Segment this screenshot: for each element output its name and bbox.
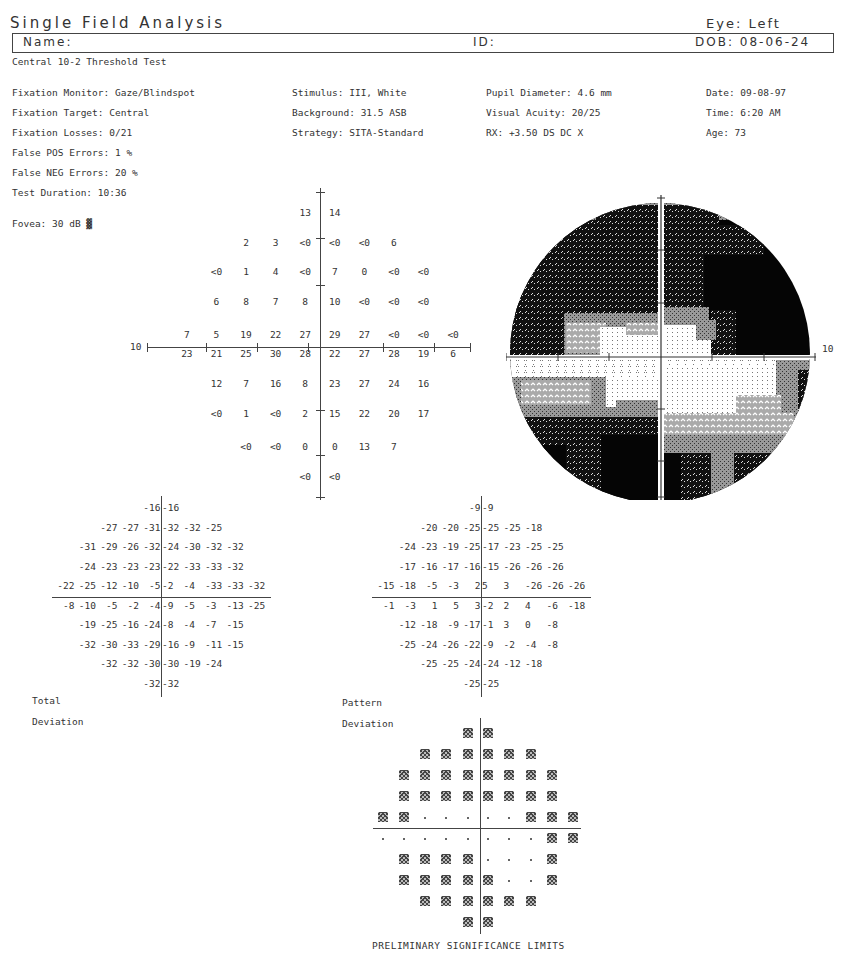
total_deviation-value: -33 bbox=[227, 580, 249, 591]
threshold-value: 25 bbox=[234, 348, 258, 359]
probability-symbol-normal bbox=[424, 817, 426, 819]
probability-symbol-significant bbox=[526, 812, 536, 822]
total_deviation-value: -16 bbox=[117, 619, 139, 630]
pattern_deviation-value: -5 bbox=[416, 580, 438, 591]
probability-horizontal-axis bbox=[373, 828, 581, 829]
total_deviation-value: -3 bbox=[205, 600, 227, 611]
pattern_deviation-value: -26 bbox=[504, 561, 526, 572]
threshold-value: 13 bbox=[352, 441, 376, 452]
threshold-axis-label: 10 bbox=[130, 341, 141, 352]
pattern_deviation-value: -18 bbox=[416, 619, 438, 630]
total_deviation-value: -19 bbox=[74, 619, 96, 630]
total_deviation-value: -29 bbox=[139, 639, 161, 650]
threshold-value: 24 bbox=[382, 378, 406, 389]
probability-symbol-significant bbox=[399, 812, 409, 822]
total_deviation-value: -19 bbox=[184, 658, 206, 669]
threshold-value: 7 bbox=[264, 296, 288, 307]
threshold-value: <0 bbox=[412, 266, 436, 277]
total_deviation-value: -33 bbox=[205, 561, 227, 572]
probability-symbol-normal bbox=[508, 817, 510, 819]
threshold-value: <0 bbox=[204, 408, 228, 419]
pattern_deviation-value: -17 bbox=[394, 561, 416, 572]
total_deviation-value: -7 bbox=[205, 619, 227, 630]
pattern_deviation-value: -24 bbox=[416, 639, 438, 650]
probability-symbol-significant bbox=[483, 749, 493, 759]
threshold-value: <0 bbox=[441, 329, 465, 340]
probability-symbol-significant bbox=[568, 812, 578, 822]
probability-symbol-significant bbox=[547, 854, 557, 864]
param-col3-0: Pupil Diameter: 4.6 mm bbox=[486, 87, 612, 98]
threshold-value: 7 bbox=[323, 266, 347, 277]
threshold-value: 27 bbox=[352, 378, 376, 389]
pattern_deviation-value: -24 bbox=[459, 658, 481, 669]
pattern_deviation-value: -25 bbox=[459, 678, 481, 689]
total_deviation-value: -9 bbox=[184, 639, 206, 650]
total_deviation-value: -32 bbox=[139, 541, 161, 552]
pattern_deviation-value: -4 bbox=[525, 639, 547, 650]
threshold-value: 2 bbox=[293, 408, 317, 419]
pattern_deviation-value: -16 bbox=[416, 561, 438, 572]
probability-vertical-axis bbox=[480, 718, 481, 934]
total_deviation-value: -16 bbox=[162, 639, 184, 650]
threshold-value: 21 bbox=[204, 348, 228, 359]
total_deviation-value: -32 bbox=[184, 522, 206, 533]
probability-symbol-significant bbox=[483, 791, 493, 801]
probability-symbol-significant bbox=[483, 896, 493, 906]
probability-symbol-significant bbox=[420, 854, 430, 864]
pattern_deviation-value: -18 bbox=[525, 658, 547, 669]
threshold-value: 28 bbox=[382, 348, 406, 359]
threshold-value: <0 bbox=[382, 266, 406, 277]
pattern_deviation-value: 5 bbox=[437, 600, 459, 611]
threshold-tick-x-0 bbox=[147, 343, 148, 352]
total_deviation-value: -12 bbox=[96, 580, 118, 591]
probability-symbol-normal bbox=[403, 838, 405, 840]
threshold-value: 12 bbox=[204, 378, 228, 389]
total_deviation-value: -9 bbox=[162, 600, 184, 611]
param-col1-0: Fixation Monitor: Gaze/Blindspot bbox=[12, 87, 195, 98]
threshold-value: <0 bbox=[352, 296, 376, 307]
total_deviation-horizontal-axis bbox=[52, 597, 271, 598]
total_deviation-value: -32 bbox=[227, 541, 249, 552]
pattern_deviation-value: -26 bbox=[568, 580, 590, 591]
probability-symbol-significant bbox=[463, 875, 473, 885]
pattern_deviation-value: -6 bbox=[547, 600, 569, 611]
pattern_deviation-value: -26 bbox=[437, 639, 459, 650]
probability-symbol-normal bbox=[530, 880, 532, 882]
threshold-value: 6 bbox=[382, 237, 406, 248]
threshold-value: 19 bbox=[412, 348, 436, 359]
threshold-tick-y-4 bbox=[316, 455, 325, 456]
grayscale-axis-label: 10 bbox=[822, 343, 833, 354]
param-col4-0: Date: 09-08-97 bbox=[706, 87, 786, 98]
id-label: ID: bbox=[473, 35, 496, 49]
pattern_deviation-value: 3 bbox=[459, 600, 481, 611]
threshold-value: <0 bbox=[412, 329, 436, 340]
probability-symbol-significant bbox=[463, 896, 473, 906]
threshold-value: 28 bbox=[293, 348, 317, 359]
param-col1-3: False POS Errors: 1 % bbox=[12, 147, 132, 158]
total_deviation-value: -32 bbox=[162, 678, 184, 689]
pattern_deviation-value: -18 bbox=[394, 580, 416, 591]
total_deviation-value: -27 bbox=[96, 522, 118, 533]
threshold-value: 16 bbox=[412, 378, 436, 389]
pattern_deviation-value: 5 bbox=[482, 580, 504, 591]
pattern_deviation-value: 1 bbox=[416, 600, 438, 611]
probability-symbol-significant bbox=[420, 749, 430, 759]
probability-symbol-significant bbox=[547, 812, 557, 822]
total_deviation-value: -24 bbox=[162, 541, 184, 552]
total_deviation-value: -16 bbox=[162, 502, 184, 513]
threshold-value: 10 bbox=[323, 296, 347, 307]
probability-symbol-significant bbox=[441, 749, 451, 759]
total_deviation-value: -31 bbox=[74, 541, 96, 552]
total_deviation-value: -22 bbox=[53, 580, 75, 591]
total_deviation-value: -32 bbox=[74, 639, 96, 650]
total_deviation-value: -32 bbox=[205, 541, 227, 552]
probability-symbol-significant bbox=[441, 854, 451, 864]
threshold-value: <0 bbox=[323, 471, 347, 482]
total_deviation-value: -8 bbox=[162, 619, 184, 630]
pattern_deviation-value: -20 bbox=[437, 522, 459, 533]
probability-symbol-normal bbox=[445, 817, 447, 819]
threshold-value: 19 bbox=[234, 329, 258, 340]
total_deviation-value: -25 bbox=[96, 619, 118, 630]
total_deviation-value: -23 bbox=[117, 561, 139, 572]
pattern_deviation-value: 3 bbox=[504, 580, 526, 591]
